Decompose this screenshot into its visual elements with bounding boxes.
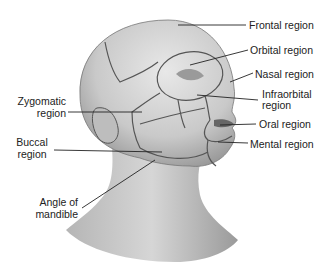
label-zygomatic-line1: Zygomatic xyxy=(10,95,66,107)
label-angle-line1: Angle of xyxy=(30,196,78,208)
label-mental-region: Mental region xyxy=(250,138,314,150)
label-nasal-region: Nasal region xyxy=(255,68,314,80)
label-orbital-region: Orbital region xyxy=(250,44,313,56)
label-buccal-line2: region xyxy=(12,148,52,160)
label-angle-line2: mandible xyxy=(30,208,78,220)
label-buccal-line1: Buccal xyxy=(12,136,52,148)
neck-shape xyxy=(66,148,238,262)
label-infraorbital-line2: region xyxy=(262,99,291,111)
label-zygomatic-line2: region xyxy=(10,107,66,119)
head-shape xyxy=(80,20,236,166)
label-oral-region: Oral region xyxy=(259,118,311,130)
label-frontal-region: Frontal region xyxy=(249,19,314,31)
